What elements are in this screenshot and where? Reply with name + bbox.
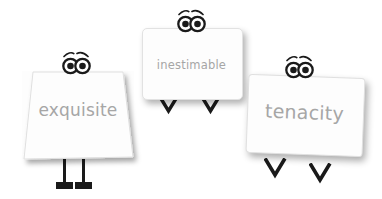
illustration-canvas: exquisite [0, 0, 382, 199]
card-label-inestimable: inestimable [142, 58, 241, 72]
leg-left-tenacity [264, 158, 288, 179]
foot-left-exquisite [56, 182, 73, 189]
foot-right-exquisite [75, 182, 92, 189]
card-label-exquisite: exquisite [22, 100, 134, 120]
card-label-tenacity: tenacity [247, 99, 363, 125]
leg-right-tenacity [309, 163, 333, 184]
